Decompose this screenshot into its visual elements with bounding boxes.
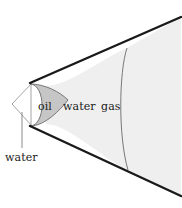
callout-label-water: water xyxy=(5,152,38,163)
oil-water-gas-cross-section-figure: oil water gas water xyxy=(0,0,182,208)
region-label-oil: oil xyxy=(38,101,52,112)
region-label-gas: gas xyxy=(101,101,121,112)
region-label-water: water xyxy=(63,101,96,112)
